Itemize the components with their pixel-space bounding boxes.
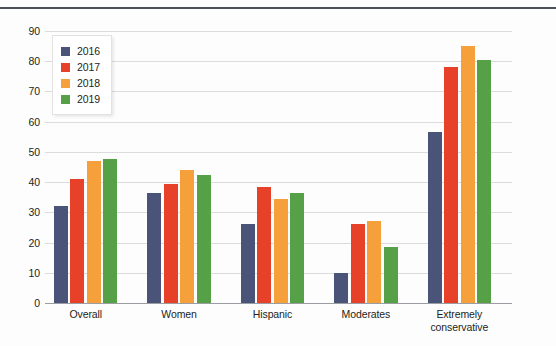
- legend-label: 2019: [77, 94, 100, 105]
- y-tick-label-40: 40: [6, 177, 40, 187]
- legend-swatch-icon: [61, 47, 70, 56]
- y-tick-label-10: 10: [6, 268, 40, 278]
- y-tick-label-90: 90: [6, 26, 40, 36]
- legend-swatch-icon: [61, 63, 70, 72]
- bar-2016-extremely: [428, 132, 442, 303]
- bar-2019-hispanic: [290, 193, 304, 303]
- bar-2016-hispanic: [241, 224, 255, 303]
- bar-group: [241, 31, 305, 303]
- bar-2019-women: [197, 175, 211, 303]
- x-tick-label-line: Women: [129, 308, 229, 321]
- legend-label: 2018: [77, 78, 100, 89]
- bar-2018-moderates: [367, 221, 381, 303]
- legend-item-2017[interactable]: 2017: [61, 59, 100, 75]
- y-tick-label-50: 50: [6, 147, 40, 157]
- x-tick-label-hispanic: Hispanic: [223, 308, 323, 321]
- top-divider-rule: [0, 7, 556, 9]
- x-tick-label-line: Moderates: [316, 308, 416, 321]
- x-tick-label-women: Women: [129, 308, 229, 321]
- legend-item-2016[interactable]: 2016: [61, 43, 100, 59]
- y-tick-label-80: 80: [6, 56, 40, 66]
- bar-series-container: [45, 31, 512, 303]
- bar-2017-overall: [70, 179, 84, 303]
- x-tick-label-extremely-conservative: Extremelyconservative: [409, 308, 509, 334]
- bar-2018-overall: [87, 161, 101, 303]
- bar-2019-overall: [103, 159, 117, 303]
- y-tick-label-30: 30: [6, 207, 40, 217]
- bar-group: [334, 31, 398, 303]
- bar-2016-women: [147, 193, 161, 303]
- x-tick-label-overall: Overall: [36, 308, 136, 321]
- legend-swatch-icon: [61, 79, 70, 88]
- bar-2017-women: [164, 184, 178, 303]
- x-tick-label-line: Overall: [36, 308, 136, 321]
- bar-2018-women: [180, 170, 194, 303]
- bar-2016-moderates: [334, 273, 348, 303]
- legend-label: 2017: [77, 62, 100, 73]
- x-axis-labels: OverallWomenHispanicModeratesExtremelyco…: [45, 308, 512, 346]
- bar-group: [147, 31, 211, 303]
- bar-2018-hispanic: [274, 199, 288, 303]
- y-axis: 0102030405060708090: [0, 31, 40, 303]
- x-tick-label-line: Hispanic: [223, 308, 323, 321]
- x-tick-label-line: Extremely: [409, 308, 509, 321]
- y-tick-label-70: 70: [6, 86, 40, 96]
- x-tick-label-line: conservative: [409, 321, 509, 334]
- chart-legend: 2016201720182019: [52, 35, 112, 115]
- chart-figure: 0102030405060708090 OverallWomenHispanic…: [0, 0, 556, 346]
- y-tick-label-0: 0: [6, 298, 40, 308]
- legend-label: 2016: [77, 46, 100, 57]
- y-tick-label-20: 20: [6, 238, 40, 248]
- legend-item-2019[interactable]: 2019: [61, 91, 100, 107]
- y-tick-label-60: 60: [6, 117, 40, 127]
- bar-2017-moderates: [351, 224, 365, 303]
- bar-2017-hispanic: [257, 187, 271, 303]
- bar-2016-overall: [54, 206, 68, 303]
- bar-2019-moderates: [384, 247, 398, 303]
- legend-item-2018[interactable]: 2018: [61, 75, 100, 91]
- x-tick-label-moderates: Moderates: [316, 308, 416, 321]
- bar-2019-extremely: [477, 60, 491, 303]
- bar-2017-extremely: [444, 67, 458, 303]
- bar-2018-extremely: [461, 46, 475, 303]
- legend-swatch-icon: [61, 95, 70, 104]
- bar-group: [428, 31, 492, 303]
